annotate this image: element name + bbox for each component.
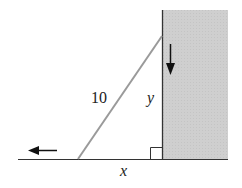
ladder-diagram: 10 y x [0, 0, 242, 188]
ground-distance-label: x [119, 162, 127, 179]
right-angle-marker [151, 148, 163, 160]
ladder-length-label: 10 [91, 89, 107, 106]
arrow-left-icon [28, 146, 57, 155]
wall-height-label: y [145, 89, 155, 107]
wall [162, 10, 228, 159]
